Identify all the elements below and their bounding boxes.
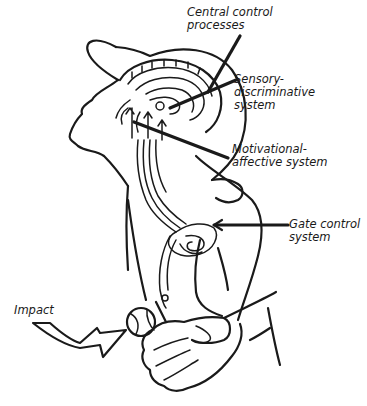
gate-control-diagram: Central control processes Sensory- discr… bbox=[0, 0, 367, 406]
label-gate-line2: system bbox=[289, 231, 360, 244]
label-central-control-line2: processes bbox=[187, 19, 273, 32]
label-central-control: Central control processes bbox=[187, 6, 273, 32]
label-pointers bbox=[134, 36, 288, 230]
pointer-motivational bbox=[134, 122, 228, 158]
label-sensory-line3: system bbox=[234, 99, 315, 112]
label-gate-control: Gate control system bbox=[289, 218, 360, 244]
hand-with-ball bbox=[127, 292, 276, 391]
label-sensory-discriminative: Sensory- discriminative system bbox=[234, 73, 315, 112]
spinal-cord-section bbox=[159, 224, 216, 308]
figure-illustration bbox=[0, 0, 367, 406]
label-motivational-affective: Motivational- affective system bbox=[232, 143, 328, 169]
spinal-pathways bbox=[126, 108, 186, 232]
body-outline bbox=[128, 156, 280, 365]
impact-arrow bbox=[33, 323, 126, 357]
pointer-sensory bbox=[170, 80, 236, 108]
label-motivational-line2: affective system bbox=[232, 156, 328, 169]
label-impact: Impact bbox=[14, 304, 54, 317]
label-impact-text: Impact bbox=[14, 304, 54, 317]
